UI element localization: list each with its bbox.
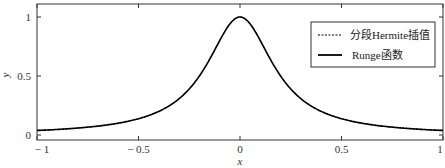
legend: 分段Hermite插值 Runge函数 [311, 22, 435, 67]
x-tick-label: 0.5 [335, 143, 349, 155]
y-tick-label: 0.5 [17, 70, 31, 82]
y-axis-label: y [0, 72, 11, 78]
legend-label-runge: Runge函数 [352, 49, 403, 61]
x-tick-label: − 1 [35, 143, 49, 155]
legend-label-hermite: 分段Hermite插值 [350, 28, 430, 41]
y-tick-label: 1 [26, 11, 32, 23]
x-tick-label: − 0.5 [127, 143, 150, 155]
y-tick-label: 0 [26, 129, 32, 141]
x-axis-label: x [237, 155, 243, 167]
x-tick-label: 0 [237, 143, 243, 155]
runge-chart: − 1− 0.500.51 00.51 x y 分段Hermite插值 Rung… [0, 0, 445, 168]
x-tick-label: 1 [437, 143, 443, 155]
